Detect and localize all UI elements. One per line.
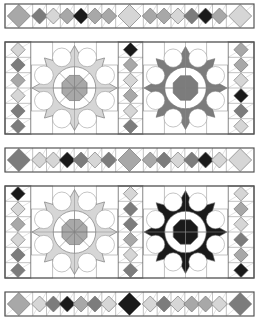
diamond-column (228, 42, 254, 134)
diamond-patch (11, 43, 25, 57)
diamond-patch (123, 263, 137, 277)
top-strip (5, 4, 254, 28)
block-row-2 (5, 186, 254, 278)
diamond-patch (234, 104, 248, 118)
diamond-patch (11, 89, 25, 103)
diamond-patch (234, 119, 248, 133)
diamond-column (228, 186, 254, 278)
diamond-patch (123, 187, 137, 201)
diamond-patch (11, 263, 25, 277)
diamond-patch (123, 58, 137, 72)
diamond-patch (11, 217, 25, 231)
diamond-patch (123, 73, 137, 87)
diamond-column (5, 42, 31, 134)
diamond-patch (11, 104, 25, 118)
quilt-pattern (0, 0, 260, 334)
diamond-patch (123, 43, 137, 57)
diamond-patch (234, 43, 248, 57)
diamond-patch (11, 233, 25, 247)
diamond-patch (234, 73, 248, 87)
block-row-1 (5, 42, 254, 134)
diamond-patch (123, 217, 137, 231)
diamond-patch (123, 248, 137, 262)
diamond-patch (11, 119, 25, 133)
bottom-strip (5, 292, 254, 316)
diamond-patch (234, 89, 248, 103)
diamond-patch (123, 104, 137, 118)
diamond-patch (234, 58, 248, 72)
diamond-patch (123, 119, 137, 133)
star-block (31, 186, 118, 278)
star-block (31, 42, 118, 134)
diamond-patch (11, 73, 25, 87)
middle-strip (5, 148, 254, 172)
diamond-patch (11, 187, 25, 201)
diamond-patch (234, 248, 248, 262)
diamond-patch (234, 263, 248, 277)
diamond-patch (123, 89, 137, 103)
diamond-patch (234, 233, 248, 247)
diamond-column (118, 186, 143, 278)
diamond-patch (123, 202, 137, 216)
diamond-patch (11, 248, 25, 262)
diamond-column (118, 42, 143, 134)
star-block (143, 42, 228, 134)
diamond-patch (234, 187, 248, 201)
diamond-patch (234, 217, 248, 231)
diamond-patch (11, 58, 25, 72)
diamond-column (5, 186, 31, 278)
diamond-patch (11, 202, 25, 216)
star-block (143, 186, 228, 278)
diamond-patch (123, 233, 137, 247)
diamond-patch (234, 202, 248, 216)
